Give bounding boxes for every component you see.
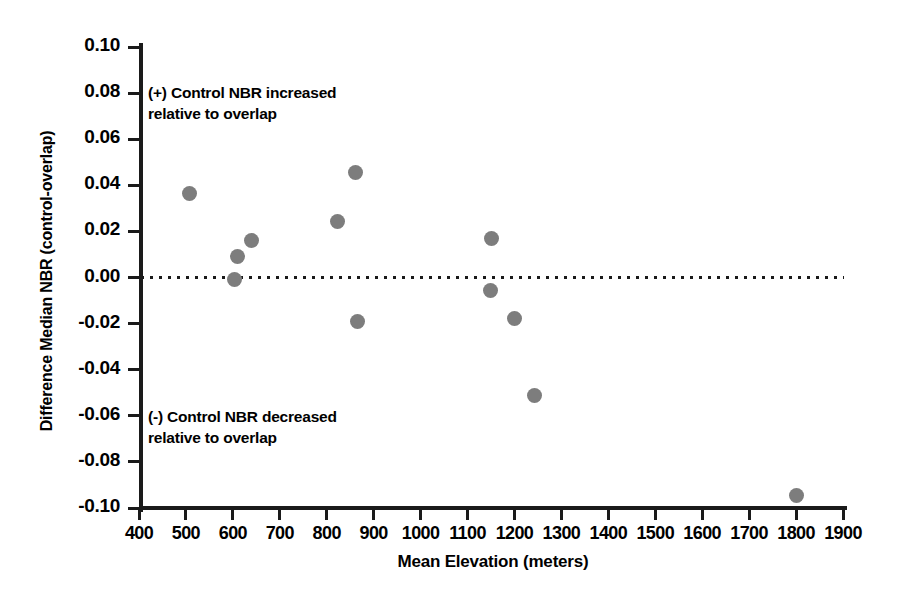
x-axis-tick [654, 510, 657, 520]
y-axis-tick [128, 368, 139, 371]
data-point [230, 249, 245, 264]
scatter-chart-figure: Difference Median NBR (control-overlap) … [0, 0, 901, 604]
y-axis-tick-label: -0.06 [40, 403, 120, 425]
y-axis-tick [128, 138, 139, 141]
annotation-negative: (-) Control NBR decreased relative to ov… [148, 406, 337, 448]
y-axis-tick-label: -0.10 [40, 495, 120, 517]
data-point [182, 186, 197, 201]
data-point [350, 314, 365, 329]
x-axis-tick [278, 510, 281, 520]
y-axis-tick [128, 184, 139, 187]
x-axis-tick [419, 510, 422, 520]
x-axis-tick [701, 510, 704, 520]
x-axis-tick [513, 510, 516, 520]
y-axis-tick-label: -0.02 [40, 311, 120, 333]
y-axis-tick-label: 0.06 [40, 126, 120, 148]
y-axis-tick-label: 0.02 [40, 218, 120, 240]
y-axis-tick-label: 0.10 [40, 34, 120, 56]
y-axis-tick [128, 276, 139, 279]
data-point [244, 233, 259, 248]
x-axis-tick [560, 510, 563, 520]
y-axis-tick-label: 0.04 [40, 172, 120, 194]
annotation-positive: (+) Control NBR increased relative to ov… [148, 82, 336, 124]
y-axis-tick-label: -0.04 [40, 357, 120, 379]
data-point [527, 388, 542, 403]
x-axis-tick [748, 510, 751, 520]
x-axis-tick-label: 1900 [813, 523, 873, 544]
y-axis-tick [128, 460, 139, 463]
x-axis-tick [842, 510, 845, 520]
x-axis-tick [231, 510, 234, 520]
x-axis-tick [325, 510, 328, 520]
data-point [227, 272, 242, 287]
y-axis-tick [128, 46, 139, 49]
y-axis-tick [128, 322, 139, 325]
data-point [330, 214, 345, 229]
data-point [484, 231, 499, 246]
x-axis-tick [184, 510, 187, 520]
data-point [789, 488, 804, 503]
y-axis-tick-label: -0.08 [40, 449, 120, 471]
y-axis-tick-label: 0.00 [40, 265, 120, 287]
y-axis-tick [128, 414, 139, 417]
x-axis-tick [795, 510, 798, 520]
data-point [483, 283, 498, 298]
x-axis-tick [138, 510, 141, 520]
y-axis-tick [128, 92, 139, 95]
y-axis-tick [128, 230, 139, 233]
x-axis-title: Mean Elevation (meters) [139, 552, 847, 572]
y-axis-tick-label: 0.08 [40, 80, 120, 102]
data-point [507, 311, 522, 326]
x-axis-tick [372, 510, 375, 520]
data-point [348, 165, 363, 180]
x-axis-tick [607, 510, 610, 520]
x-axis-tick [466, 510, 469, 520]
